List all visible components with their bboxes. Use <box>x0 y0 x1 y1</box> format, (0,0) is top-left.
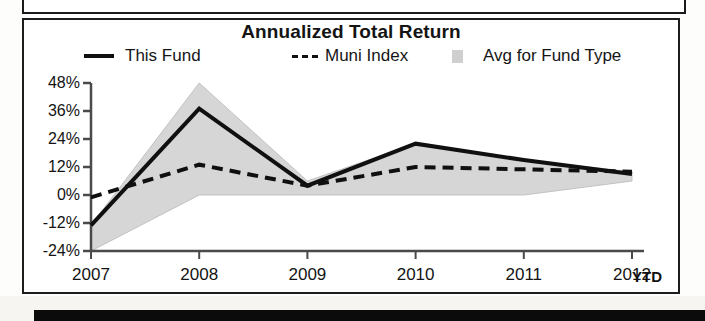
annualized-total-return-panel: Annualized Total Return This Fund Muni I… <box>22 18 680 294</box>
ytd-annotation: YTD <box>632 268 662 285</box>
x-tick-label: 2010 <box>381 265 451 285</box>
y-tick-label: 12% <box>24 158 80 176</box>
x-tick-label: 2008 <box>164 265 234 285</box>
avg-for-fund-type-band <box>91 83 632 251</box>
y-tick-label: 36% <box>24 102 80 120</box>
page-bottom-black-bar <box>34 310 705 321</box>
y-tick-label: -12% <box>24 214 80 232</box>
x-tick-label: 2009 <box>272 265 342 285</box>
y-tick-label: 0% <box>24 186 80 204</box>
x-tick-label: 2011 <box>489 265 559 285</box>
chart-svg <box>24 20 682 296</box>
chart-plot-area: 48%36%24%12%0%-12%-24% 20072008200920102… <box>24 20 682 296</box>
y-tick-label: -24% <box>24 242 80 260</box>
x-tick-label: 2007 <box>56 265 126 285</box>
above-panel-fragment <box>22 0 686 14</box>
y-tick-label: 48% <box>24 74 80 92</box>
y-tick-label: 24% <box>24 130 80 148</box>
